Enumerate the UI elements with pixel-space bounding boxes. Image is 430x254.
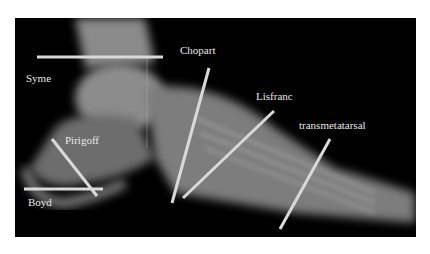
label-boyd: Boyd bbox=[28, 196, 52, 208]
label-syme: Syme bbox=[26, 72, 51, 84]
foot-xray-image: Syme Chopart Lisfranc transmetatarsal Pi… bbox=[15, 18, 416, 237]
label-pirigoff: Pirigoff bbox=[65, 134, 99, 146]
label-transmetatarsal: transmetatarsal bbox=[299, 119, 366, 131]
label-lisfranc: Lisfranc bbox=[256, 90, 293, 102]
label-chopart: Chopart bbox=[180, 44, 215, 56]
